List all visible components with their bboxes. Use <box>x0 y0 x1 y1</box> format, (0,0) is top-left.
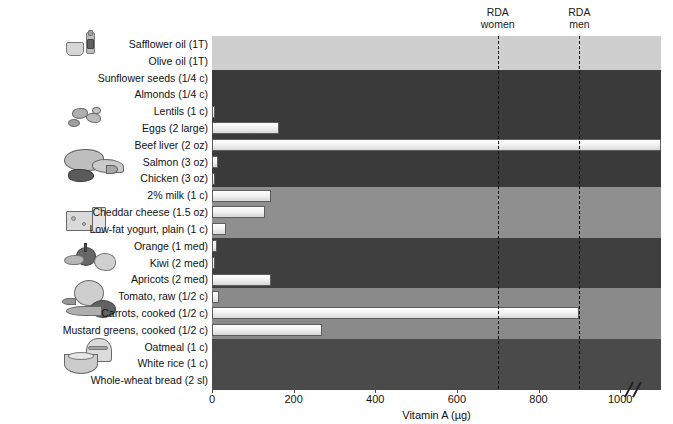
category-label: Low-fat yogurt, plain (1 c) <box>90 221 208 238</box>
category-label: Oatmeal (1 c) <box>144 339 208 356</box>
bar-low-fat-yogurt-plain-1-c <box>212 223 226 235</box>
bar-row <box>212 221 661 238</box>
x-tick-label: 800 <box>513 393 565 405</box>
bar-2-milk-1-c <box>212 190 271 202</box>
category-label: Tomato, raw (1/2 c) <box>118 288 208 305</box>
bar-kiwi-2-med <box>212 257 215 269</box>
bar-apricots-2-med <box>212 274 271 286</box>
bar-row <box>212 103 661 120</box>
category-label: Beef liver (2 oz) <box>134 137 208 154</box>
category-label: Safflower oil (1T) <box>129 36 208 53</box>
category-label: White rice (1 c) <box>137 355 208 372</box>
category-label: Orange (1 med) <box>134 238 208 255</box>
bar-lentils-1-c <box>212 106 215 118</box>
bar-carrots-cooked-1-2-c <box>212 307 579 319</box>
rda-men-line1: RDA <box>544 6 614 18</box>
x-tick-label: 1000 <box>594 393 646 405</box>
x-tick-label: 400 <box>349 393 401 405</box>
plot-area <box>212 36 661 389</box>
bar-row <box>212 137 661 154</box>
bar-row <box>212 305 661 322</box>
x-axis-title: Vitamin A (µg) <box>212 409 661 421</box>
bar-row <box>212 154 661 171</box>
rda-men-annotation: RDA men <box>544 6 614 30</box>
category-label: Apricots (2 med) <box>131 271 208 288</box>
category-label: Eggs (2 large) <box>142 120 208 137</box>
bar-row <box>212 120 661 137</box>
bar-chicken-3-oz <box>212 173 215 185</box>
category-label: Lentils (1 c) <box>154 103 208 120</box>
rda-line-rda-women <box>498 36 499 389</box>
category-label: Sunflower seeds (1/4 c) <box>98 70 208 87</box>
category-label: Kiwi (2 med) <box>150 255 208 272</box>
bar-row <box>212 238 661 255</box>
category-label: Mustard greens, cooked (1/2 c) <box>63 322 208 339</box>
vitamin-a-food-sources-chart: RDA women RDA men Safflower oil (1T)Oliv… <box>0 0 673 424</box>
bar-row <box>212 255 661 272</box>
rda-women-line2: women <box>463 18 533 30</box>
category-label: Whole-wheat bread (2 sl) <box>91 372 208 389</box>
bar-row <box>212 355 661 372</box>
bar-orange-1-med <box>212 240 217 252</box>
bar-row <box>212 271 661 288</box>
x-axis-line <box>212 389 661 390</box>
bar-row <box>212 204 661 221</box>
bar-row <box>212 53 661 70</box>
bar-row <box>212 288 661 305</box>
bar-row <box>212 86 661 103</box>
x-tick-label: 0 <box>186 393 238 405</box>
bar-row <box>212 339 661 356</box>
bar-cheddar-cheese-1-5-oz <box>212 206 265 218</box>
category-label: Carrots, cooked (1/2 c) <box>101 305 208 322</box>
bar-mustard-greens-cooked-1-2-c <box>212 324 322 336</box>
bar-salmon-3-oz <box>212 156 218 168</box>
x-tick-label: 600 <box>431 393 483 405</box>
category-label: Cheddar cheese (1.5 oz) <box>92 204 208 221</box>
bar-row <box>212 170 661 187</box>
rda-women-line1: RDA <box>463 6 533 18</box>
bar-eggs-2-large <box>212 122 279 134</box>
category-label: 2% milk (1 c) <box>147 187 208 204</box>
rda-men-line2: men <box>544 18 614 30</box>
category-label: Olive oil (1T) <box>148 53 208 70</box>
rda-line-rda-men <box>579 36 580 389</box>
category-label: Almonds (1/4 c) <box>134 86 208 103</box>
rda-women-annotation: RDA women <box>463 6 533 30</box>
bar-tomato-raw-1-2-c <box>212 291 219 303</box>
bar-row <box>212 36 661 53</box>
x-tick-label: 200 <box>268 393 320 405</box>
bar-row <box>212 70 661 87</box>
bar-row <box>212 187 661 204</box>
bar-row <box>212 322 661 339</box>
bar-row <box>212 372 661 389</box>
bar-beef-liver-2-oz <box>212 139 661 151</box>
category-label: Chicken (3 oz) <box>140 170 208 187</box>
category-labels: Safflower oil (1T)Olive oil (1T)Sunflowe… <box>0 36 208 389</box>
category-label: Salmon (3 oz) <box>143 154 208 171</box>
